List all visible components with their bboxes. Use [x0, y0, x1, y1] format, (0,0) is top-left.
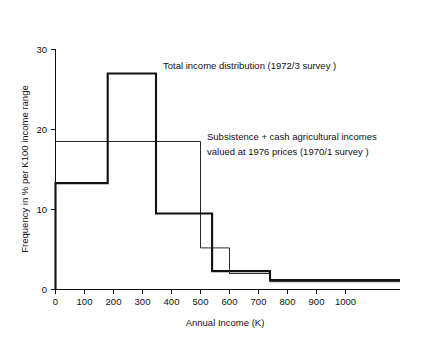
chart-figure: 0 10 20 30 0 100 200 300 400 500 — [0, 0, 439, 344]
x-tick-label-200: 200 — [106, 296, 122, 307]
y-tick-label-30: 30 — [36, 44, 47, 55]
annotation-subsistence-label-line1: Subsistence + cash agricultural incomes — [207, 131, 377, 142]
x-tick-label-800: 800 — [280, 296, 296, 307]
x-tick-label-0: 0 — [53, 296, 58, 307]
x-tick-label-500: 500 — [193, 296, 209, 307]
y-tick-label-0: 0 — [42, 284, 47, 295]
income-distribution-chart: 0 10 20 30 0 100 200 300 400 500 — [0, 0, 439, 344]
annotation-total-income-label: Total income distribution (1972/3 survey… — [163, 60, 336, 71]
x-tick-label-1000: 1000 — [335, 296, 356, 307]
y-axis-title: Frequency in % per K100 income range — [19, 85, 30, 252]
chart-background — [0, 0, 439, 344]
x-tick-label-900: 900 — [309, 296, 325, 307]
x-tick-label-400: 400 — [164, 296, 180, 307]
x-tick-label-300: 300 — [135, 296, 151, 307]
x-axis-title: Annual Income (K) — [186, 317, 265, 328]
y-tick-label-20: 20 — [36, 124, 47, 135]
annotation-subsistence-label-line2: valued at 1976 prices (1970/1 survey ) — [207, 146, 369, 157]
x-tick-label-700: 700 — [251, 296, 267, 307]
x-tick-label-600: 600 — [222, 296, 238, 307]
x-tick-label-100: 100 — [77, 296, 93, 307]
y-tick-label-10: 10 — [36, 204, 47, 215]
